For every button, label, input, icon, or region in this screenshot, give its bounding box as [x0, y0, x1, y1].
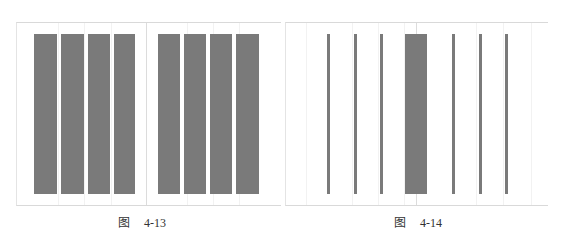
grid-guide	[84, 23, 85, 205]
column-bar	[158, 34, 180, 194]
grid-guide	[352, 23, 353, 205]
column-rule	[479, 34, 482, 194]
caption-prefix: 图	[394, 216, 406, 230]
column-rule	[452, 34, 455, 194]
column-rule	[380, 34, 383, 194]
column-rule	[505, 34, 508, 194]
column-bar	[210, 34, 232, 194]
column-bar	[114, 34, 135, 194]
figure-4-13: 图4-13	[0, 0, 282, 242]
column-rule	[327, 34, 330, 194]
grid-guide	[503, 23, 504, 205]
figure-4-14: 图4-14	[282, 0, 563, 242]
column-bar	[184, 34, 206, 194]
center-column-bar	[405, 34, 427, 194]
page-frame	[285, 22, 548, 206]
figure-caption: 图4-14	[394, 213, 442, 231]
caption-number: 4-14	[420, 216, 442, 230]
grid-guide	[476, 23, 477, 205]
column-bar	[61, 34, 84, 194]
spine-divider	[146, 23, 147, 205]
column-bar	[236, 34, 259, 194]
page-frame	[16, 22, 281, 206]
column-rule	[354, 34, 357, 194]
column-bar	[34, 34, 57, 194]
grid-guide	[378, 23, 379, 205]
caption-number: 4-13	[144, 216, 166, 230]
grid-guide	[58, 23, 59, 205]
grid-guide	[531, 23, 532, 205]
caption-prefix: 图	[118, 216, 130, 230]
figure-caption: 图4-13	[118, 213, 166, 231]
column-bar	[88, 34, 110, 194]
grid-guide	[306, 23, 307, 205]
grid-guide	[111, 23, 112, 205]
